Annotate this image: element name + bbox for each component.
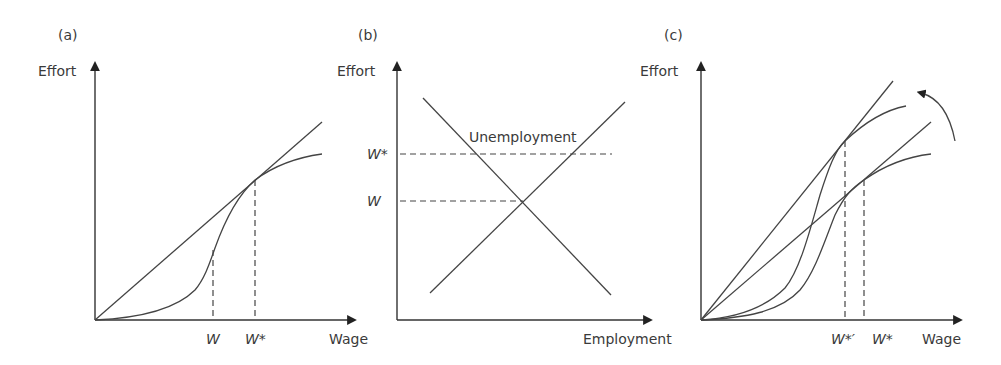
panel-b: (b) Effort W* W Unemployment Employment (337, 27, 672, 347)
panel-a-y-axis-label: Effort (38, 63, 77, 79)
panel-c-tick-wstarprime: W*′ (831, 331, 856, 347)
panel-c-lower-effort-curve (701, 154, 931, 320)
panel-a-effort-curve (95, 154, 322, 320)
panel-a-label: (a) (58, 27, 78, 43)
panel-a-tick-w: W (206, 331, 221, 347)
panel-b-x-axis-label: Employment (583, 331, 672, 347)
panel-b-demand-line (423, 98, 611, 295)
panel-c-shift-arrow-icon (921, 93, 955, 141)
panel-c-shallow-ray (701, 122, 931, 320)
panel-b-y-axis-label: Effort (337, 63, 376, 79)
panel-c-y-axis-label: Effort (640, 63, 679, 79)
panel-c-upper-effort-curve (701, 106, 906, 320)
panel-c-tick-wstar: W* (872, 331, 893, 347)
panel-b-label: (b) (358, 27, 378, 43)
panel-a-tick-wstar: W* (245, 331, 266, 347)
panel-b-tick-wstar: W* (367, 146, 388, 162)
panel-c: (c) Effort W*′ W* Wage (640, 27, 961, 347)
panel-b-tick-w: W (367, 193, 382, 209)
panel-c-x-axis-label: Wage (922, 331, 961, 347)
figure-canvas: (a) Effort W W* (b) Effort W* W Unemploy… (0, 0, 1001, 365)
panel-c-label: (c) (664, 27, 683, 43)
panel-a-tangent-ray (95, 122, 322, 320)
panel-a-x-axis-label: Wage (329, 331, 368, 347)
panel-a: (a) Effort W W* (38, 27, 352, 347)
panel-b-unemployment-label: Unemployment (469, 129, 577, 145)
